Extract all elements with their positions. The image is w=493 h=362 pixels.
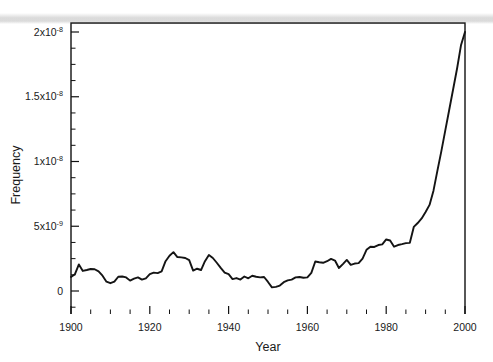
x-tick-label: 2000 [453,321,477,333]
y-tick-label: 1x10-8 [34,154,63,167]
x-axis-title: Year [255,340,280,354]
y-tick-label: 0 [57,285,63,297]
x-tick-label: 1940 [217,321,241,333]
x-axis-ticks [71,306,465,314]
y-tick-label: 1.5x10-8 [25,89,63,102]
chart-figure: 05x10-91x10-81.5x10-82x10-8 190019201940… [0,0,493,362]
y-tick-label: 2x10-8 [34,25,63,38]
y-tick-label: 5x10-9 [34,219,63,232]
x-axis-tick-labels: 190019201940196019802000 [59,321,477,333]
y-axis-title: Frequency [9,145,23,205]
x-tick-label: 1920 [138,321,162,333]
x-tick-label: 1980 [375,321,399,333]
x-tick-label: 1960 [296,321,320,333]
data-series-frequency [71,32,465,287]
x-tick-label: 1900 [59,321,83,333]
plot-frame [71,23,465,314]
y-axis-tick-labels: 05x10-91x10-81.5x10-82x10-8 [25,25,63,297]
frequency-vs-year-line-chart: 05x10-91x10-81.5x10-82x10-8 190019201940… [0,0,493,362]
